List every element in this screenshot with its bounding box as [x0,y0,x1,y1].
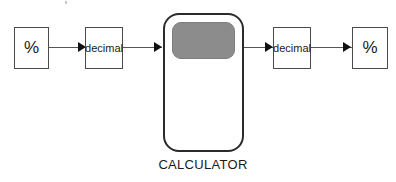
arrowhead-right-icon [343,42,351,52]
arrowhead-right-icon [154,42,162,52]
arrowhead-right-icon [265,42,273,52]
node-percent-output-label: % [362,38,377,58]
node-calculator[interactable] [163,13,244,152]
node-percent-input-label: % [24,38,39,58]
calculator-caption: CALCULATOR [143,157,263,172]
node-decimal-output[interactable]: decimal [273,27,311,69]
node-percent-output[interactable]: % [352,27,388,69]
calculator-display-screen [172,22,235,59]
node-decimal-input-label: decimal [85,42,123,54]
node-percent-input[interactable]: % [14,27,49,69]
node-decimal-output-label: decimal [273,42,311,54]
scan-artifact-mark [65,1,67,4]
node-decimal-input[interactable]: decimal [85,27,123,69]
flow-diagram: % decimal CALCULATOR decimal % [0,0,396,182]
